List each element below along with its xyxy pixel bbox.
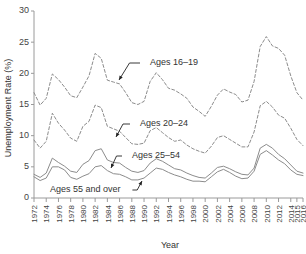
x-tick-label: 1992: [152, 204, 161, 222]
x-axis-title: Year: [161, 240, 179, 250]
y-tick-label: 20: [19, 68, 29, 78]
x-tick-label: 2006: [238, 204, 247, 222]
y-tick-label: 25: [19, 37, 29, 47]
x-tick-label: 2002: [214, 204, 223, 222]
series-annotations: Ages 16–19Ages 20–24Ages 25–54Ages 55 an…: [50, 57, 198, 194]
y-tick-label: 30: [19, 5, 29, 15]
x-tick-label: 1984: [104, 204, 113, 222]
x-tick-label: 2000: [201, 204, 210, 222]
y-tick-label: 5: [24, 161, 29, 171]
x-tick-label: 2016: [299, 204, 306, 222]
x-tick-label: 1996: [177, 204, 186, 222]
x-tick-label: 1988: [128, 204, 137, 222]
x-tick-label: 1974: [42, 204, 51, 222]
unemployment-rate-line-chart: 051015202530 197219741976197819801982198…: [0, 0, 306, 254]
x-tick-label: 1982: [91, 204, 100, 222]
x-axis: 1972197419761978198019821984198619881990…: [30, 198, 306, 223]
x-tick-label: 1994: [165, 204, 174, 222]
x-tick-label: 1990: [140, 204, 149, 222]
annotation-label: Ages 20–24: [140, 118, 188, 128]
x-tick-label: 1976: [55, 204, 64, 222]
y-tick-label: 10: [19, 130, 29, 140]
x-tick-label: 1972: [30, 204, 39, 222]
y-tick-label: 0: [24, 192, 29, 202]
annotation-label: Ages 25–54: [132, 150, 180, 160]
x-tick-label: 1998: [189, 204, 198, 222]
x-tick-label: 1986: [116, 204, 125, 222]
x-tick-label: 1980: [79, 204, 88, 222]
annotation-label: Ages 55 and over: [50, 184, 121, 194]
annotation-label: Ages 16–19: [150, 57, 198, 67]
y-axis: 051015202530: [19, 5, 34, 202]
x-tick-label: 2012: [275, 204, 284, 222]
y-tick-label: 15: [19, 99, 29, 109]
chart-container: 051015202530 197219741976197819801982198…: [0, 0, 306, 254]
x-tick-label: 2004: [226, 204, 235, 222]
y-axis-title: Unemployment Rate (%): [3, 59, 13, 158]
x-tick-label: 2008: [250, 204, 259, 222]
x-tick-label: 2010: [263, 204, 272, 222]
x-tick-label: 1978: [67, 204, 76, 222]
